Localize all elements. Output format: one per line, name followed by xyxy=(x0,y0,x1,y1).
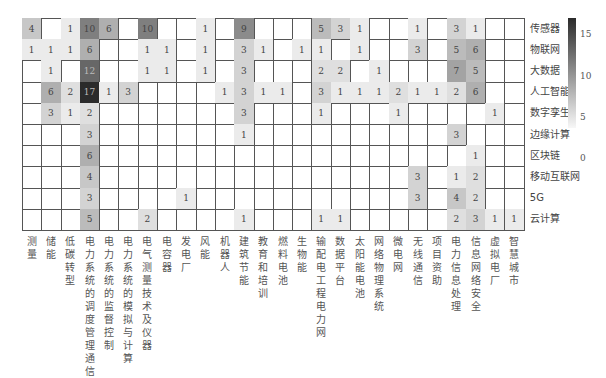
heatmap-cell xyxy=(447,145,467,167)
column-label: 信息网络安全 xyxy=(469,235,483,313)
heatmap-cell xyxy=(176,124,196,146)
heatmap-cell xyxy=(427,166,447,188)
heatmap-cell xyxy=(138,82,158,104)
heatmap-cell: 3 xyxy=(234,60,254,82)
heatmap-cell xyxy=(254,145,274,167)
heatmap-cell xyxy=(485,145,505,167)
heatmap-cell xyxy=(350,60,370,82)
heatmap-cell xyxy=(485,82,505,104)
heatmap-cell xyxy=(350,145,370,167)
heatmap-cell xyxy=(254,188,274,210)
heatmap-cell xyxy=(99,166,119,188)
heatmap-cell xyxy=(350,166,370,188)
row-label: 边缘计算 xyxy=(530,130,570,140)
heatmap-cell xyxy=(196,209,216,231)
heatmap-cell xyxy=(215,145,235,167)
column-label: 建筑节能 xyxy=(237,235,251,287)
heatmap-cell xyxy=(41,145,61,167)
heatmap-cell xyxy=(99,39,119,61)
heatmap-cell xyxy=(138,103,158,125)
heatmap-cell xyxy=(389,39,409,61)
heatmap-cell: 3 xyxy=(408,188,428,210)
heatmap-cell xyxy=(312,188,332,210)
heatmap-cell: 4 xyxy=(447,188,467,210)
column-label: 教育和培训 xyxy=(256,235,270,300)
heatmap-cell xyxy=(427,188,447,210)
heatmap-cell xyxy=(234,145,254,167)
heatmap-cell xyxy=(350,209,370,231)
heatmap-cell xyxy=(331,145,351,167)
heatmap-cell: 1 xyxy=(447,166,467,188)
heatmap-cell: 5 xyxy=(312,18,332,40)
heatmap-cell: 1 xyxy=(138,39,158,61)
heatmap-cell xyxy=(273,188,293,210)
column-label: 虚拟电厂 xyxy=(488,235,502,287)
heatmap-cell: 2 xyxy=(466,188,486,210)
heatmap-cell xyxy=(215,18,235,40)
column-label: 生物能 xyxy=(295,235,309,274)
heatmap-cell: 3 xyxy=(119,82,139,104)
heatmap-cell: 1 xyxy=(350,18,370,40)
heatmap-cell: 10 xyxy=(138,18,158,40)
heatmap-cell xyxy=(119,39,139,61)
heatmap-cell xyxy=(254,60,274,82)
heatmap-cell xyxy=(369,188,389,210)
heatmap-cell xyxy=(215,60,235,82)
heatmap-cell xyxy=(369,209,389,231)
heatmap-cell: 1 xyxy=(466,18,486,40)
heatmap-cell xyxy=(119,166,139,188)
heatmap-cell: 1 xyxy=(196,39,216,61)
heatmap-cell xyxy=(273,60,293,82)
heatmap-cell xyxy=(505,166,525,188)
heatmap-cell xyxy=(215,124,235,146)
heatmap-cell: 6 xyxy=(466,82,486,104)
heatmap-cell xyxy=(196,188,216,210)
heatmap-cell xyxy=(119,188,139,210)
heatmap-cell: 3 xyxy=(80,124,100,146)
heatmap-cell: 1 xyxy=(466,145,486,167)
heatmap-cell xyxy=(157,82,177,104)
heatmap-cell xyxy=(254,209,274,231)
heatmap-cell: 1 xyxy=(427,82,447,104)
heatmap-cell xyxy=(119,60,139,82)
heatmap-cell xyxy=(350,124,370,146)
heatmap-cell: 2 xyxy=(447,82,467,104)
heatmap-cell xyxy=(22,103,42,125)
heatmap-cell: 1 xyxy=(215,82,235,104)
heatmap-cell: 1 xyxy=(331,82,351,104)
heatmap-cell xyxy=(389,145,409,167)
heatmap-cell xyxy=(119,209,139,231)
heatmap-cell xyxy=(273,209,293,231)
heatmap-cell xyxy=(273,103,293,125)
column-label: 无线通信 xyxy=(411,235,425,287)
column-label: 测量 xyxy=(25,235,39,261)
heatmap-cell xyxy=(99,209,119,231)
heatmap-cell xyxy=(22,124,42,146)
heatmap-cell xyxy=(61,209,81,231)
heatmap-cell xyxy=(138,124,158,146)
heatmap-cell xyxy=(331,103,351,125)
heatmap-cell: 1 xyxy=(408,18,428,40)
heatmap-cell xyxy=(234,166,254,188)
heatmap-cell: 2 xyxy=(312,60,332,82)
colorbar-tick-label: 10 xyxy=(580,71,591,81)
heatmap-cell xyxy=(41,166,61,188)
colorbar-tick-label: 15 xyxy=(580,29,591,39)
heatmap-cell xyxy=(138,145,158,167)
heatmap-cell: 1 xyxy=(369,82,389,104)
heatmap-cell xyxy=(215,39,235,61)
heatmap-cell xyxy=(485,18,505,40)
heatmap-cell: 3 xyxy=(408,39,428,61)
heatmap-cell: 3 xyxy=(408,166,428,188)
heatmap-cell: 1 xyxy=(61,18,81,40)
heatmap-cell xyxy=(61,124,81,146)
heatmap-cell xyxy=(99,145,119,167)
heatmap-cell xyxy=(22,60,42,82)
heatmap-cell xyxy=(176,166,196,188)
row-label: 区块链 xyxy=(530,151,560,161)
heatmap-cell xyxy=(427,145,447,167)
heatmap-cell: 1 xyxy=(61,39,81,61)
heatmap-cell: 5 xyxy=(80,209,100,231)
heatmap-cell: 2 xyxy=(389,82,409,104)
heatmap-cell xyxy=(176,18,196,40)
